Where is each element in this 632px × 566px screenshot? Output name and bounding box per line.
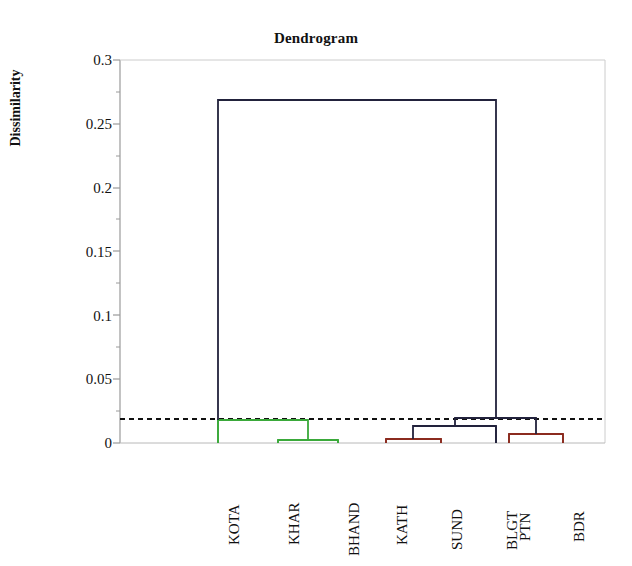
- x-tick-label-kath: KATH: [394, 505, 411, 545]
- x-tick-label-khar: KHAR: [286, 502, 303, 545]
- dendrogram-figure: Dendrogram Dissimilarity 0.3 0.25 0.2 0.…: [0, 0, 632, 566]
- dendrogram-plot: [0, 0, 632, 566]
- axis-lines: [120, 60, 605, 443]
- x-tick-label-bhand: BHAND: [346, 503, 363, 556]
- green-cluster-links: [218, 420, 338, 443]
- dark-cluster-links: [218, 100, 536, 443]
- x-tick-label-kota: KOTA: [226, 505, 243, 545]
- x-tick-label-bdr: BDR: [571, 511, 588, 542]
- x-tick-label-ptn: PTN: [517, 513, 534, 541]
- x-tick-label-sund: SUND: [449, 509, 466, 550]
- y-axis-ticks: [113, 60, 120, 443]
